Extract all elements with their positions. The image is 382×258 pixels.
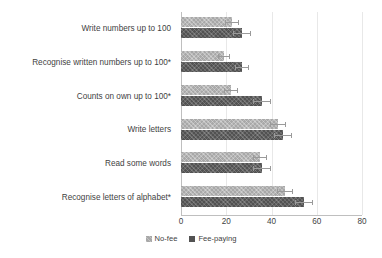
bar-group [181,46,362,80]
category-label: Read some words [105,159,171,169]
x-tick-label: 80 [357,217,366,226]
y-axis-category-labels: Write numbers up to 100Recognise written… [0,12,177,215]
x-axis-line [181,215,362,216]
bar-fee-paying [181,130,283,140]
x-tick-label: 20 [222,217,231,226]
x-tick-label: 0 [179,217,184,226]
legend-swatch-icon [189,236,195,242]
bar-group [181,181,362,215]
x-tick-label: 40 [267,217,276,226]
category-label: Counts on own up to 100* [77,92,171,102]
error-bar [233,33,251,34]
bar-no-fee [181,119,278,129]
legend-label: No-fee [155,234,178,243]
error-bar [274,135,292,136]
error-bar [225,22,239,23]
bar-fee-paying [181,96,262,106]
plot-area [181,12,362,215]
error-bar [253,101,271,102]
error-bar [235,67,249,68]
bar-group [181,147,362,181]
category-label: Write letters [127,125,171,135]
category-label: Recognise written numbers up to 100* [32,58,171,68]
bar-fee-paying [181,62,242,72]
error-bar [253,168,271,169]
x-tick-label: 60 [312,217,321,226]
error-bar [295,202,313,203]
bar-fee-paying [181,163,262,173]
bar-group [181,80,362,114]
legend-item[interactable]: Fee-paying [189,234,236,243]
error-bar [253,157,267,158]
bar-fee-paying [181,197,304,207]
bar-group [181,12,362,46]
bar-group [181,114,362,148]
bar-no-fee [181,152,260,162]
gridline-80 [362,12,363,215]
bar-chart: Write numbers up to 100Recognise written… [0,0,382,258]
error-bar [270,124,286,125]
category-label: Recognise letters of alphabet* [62,193,171,203]
legend-label: Fee-paying [198,234,236,243]
category-label: Write numbers up to 100 [81,24,171,34]
legend-item[interactable]: No-fee [146,234,178,243]
x-axis-tick-labels: 020406080 [181,217,362,231]
bar-no-fee [181,186,285,196]
chart-legend: No-feeFee-paying [0,234,382,243]
legend-swatch-icon [146,236,152,242]
error-bar [277,191,293,192]
error-bar [218,56,229,57]
error-bar [224,90,238,91]
